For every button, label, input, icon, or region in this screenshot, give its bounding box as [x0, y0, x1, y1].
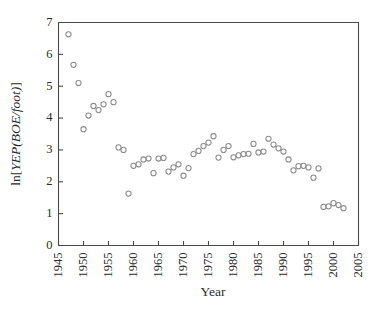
data-point-marker	[141, 157, 146, 162]
data-point-marker	[136, 162, 141, 167]
data-point-marker	[286, 157, 291, 162]
x-tick-label: 1990	[276, 253, 290, 278]
data-point-marker	[106, 92, 111, 97]
x-tick-label: 1975	[201, 253, 215, 278]
data-points	[66, 32, 346, 211]
x-tick-label: 1950	[76, 253, 90, 278]
y-axis-ticks: 01234567	[46, 15, 63, 252]
data-point-marker	[226, 144, 231, 149]
data-point-marker	[191, 151, 196, 156]
y-tick-label: 5	[46, 79, 52, 93]
data-point-marker	[326, 204, 331, 209]
x-tick-label: 1980	[226, 253, 240, 278]
x-axis-title: Year	[201, 284, 226, 299]
data-point-marker	[246, 151, 251, 156]
data-point-marker	[201, 144, 206, 149]
data-point-marker	[211, 134, 216, 139]
plot-area-svg: 01234567 1945195019551960196519701975198…	[0, 0, 379, 309]
data-point-marker	[71, 62, 76, 67]
data-point-marker	[166, 169, 171, 174]
x-tick-label: 1970	[176, 253, 190, 278]
data-point-marker	[216, 155, 221, 160]
data-point-marker	[281, 149, 286, 154]
x-tick-label: 2000	[326, 253, 340, 278]
data-point-marker	[251, 141, 256, 146]
data-point-marker	[296, 164, 301, 169]
x-tick-label: 1945	[51, 253, 65, 278]
data-point-marker	[151, 171, 156, 176]
x-axis-ticks: 1945195019551960196519701975198019851990…	[51, 241, 365, 278]
data-point-marker	[91, 103, 96, 108]
data-point-marker	[256, 150, 261, 155]
x-tick-label: 1965	[151, 253, 165, 278]
y-tick-label: 4	[46, 110, 53, 124]
y-axis-title-italic: YEP(BOE/foot)	[8, 86, 23, 170]
x-tick-label: 1955	[101, 253, 115, 278]
data-point-marker	[146, 156, 151, 161]
data-point-marker	[81, 127, 86, 132]
data-point-marker	[221, 147, 226, 152]
data-point-marker	[241, 151, 246, 156]
scatter-chart-figure: 01234567 1945195019551960196519701975198…	[0, 0, 379, 309]
data-point-marker	[276, 146, 281, 151]
y-tick-label: 7	[46, 15, 52, 29]
data-point-marker	[131, 163, 136, 168]
data-point-marker	[271, 142, 276, 147]
y-tick-label: 2	[46, 174, 52, 188]
y-axis-title-prefix: ln[	[8, 170, 23, 186]
data-point-marker	[76, 80, 81, 85]
data-point-marker	[331, 201, 336, 206]
axis-frame-path	[59, 23, 359, 246]
y-axis-title-suffix: ]	[8, 82, 23, 87]
y-tick-label: 6	[46, 47, 52, 61]
y-tick-label: 3	[46, 142, 52, 156]
data-point-marker	[96, 108, 101, 113]
data-point-marker	[196, 148, 201, 153]
axes-frame	[59, 23, 359, 246]
data-point-marker	[336, 202, 341, 207]
x-tick-label: 1985	[251, 253, 265, 278]
data-point-marker	[266, 136, 271, 141]
data-point-marker	[316, 166, 321, 171]
x-tick-label: 2005	[351, 253, 365, 278]
data-point-marker	[261, 149, 266, 154]
data-point-marker	[116, 145, 121, 150]
data-point-marker	[181, 173, 186, 178]
svg-text:ln[YEP(BOE/foot)]: ln[YEP(BOE/foot)]	[8, 82, 23, 186]
data-point-marker	[176, 162, 181, 167]
x-tick-label: 1960	[126, 253, 140, 278]
data-point-marker	[86, 113, 91, 118]
data-point-marker	[126, 191, 131, 196]
data-point-marker	[161, 155, 166, 160]
data-point-marker	[321, 204, 326, 209]
x-tick-label: 1995	[301, 253, 315, 278]
data-point-marker	[156, 156, 161, 161]
data-point-marker	[231, 155, 236, 160]
data-point-marker	[121, 147, 126, 152]
data-point-marker	[301, 163, 306, 168]
data-point-marker	[111, 100, 116, 105]
data-point-marker	[101, 102, 106, 107]
y-tick-label: 1	[46, 206, 52, 220]
data-point-marker	[306, 165, 311, 170]
data-point-marker	[236, 153, 241, 158]
data-point-marker	[311, 175, 316, 180]
data-point-marker	[206, 140, 211, 145]
data-point-marker	[66, 32, 71, 37]
data-point-marker	[291, 168, 296, 173]
data-point-marker	[341, 206, 346, 211]
data-point-marker	[186, 165, 191, 170]
y-tick-label: 0	[46, 238, 52, 252]
data-point-marker	[171, 165, 176, 170]
y-axis-title: ln[YEP(BOE/foot)]	[8, 82, 23, 186]
